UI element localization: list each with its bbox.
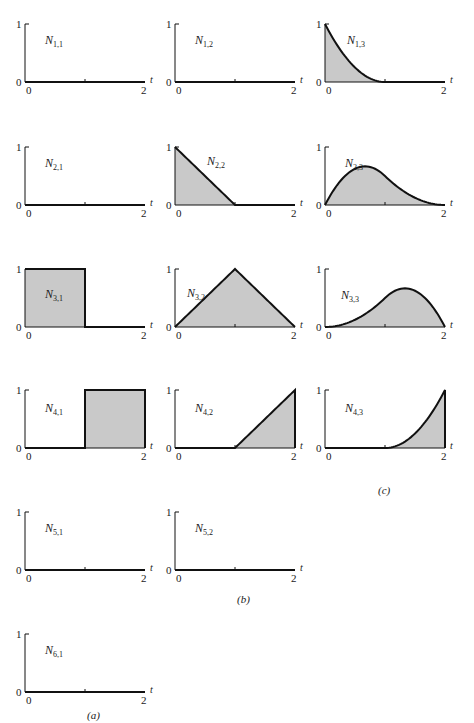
function-label: N5,1 — [44, 521, 63, 537]
x-label-0: 0 — [26, 329, 32, 341]
x-label-0: 0 — [26, 572, 32, 584]
x-label-2: 2 — [441, 207, 447, 219]
x-label-2: 2 — [441, 329, 447, 341]
function-label: N3,3 — [340, 288, 359, 304]
function-label: N1,2 — [194, 33, 213, 49]
x-label-2: 2 — [441, 84, 447, 96]
plot-3-3: 1002tN3,3 — [316, 263, 453, 341]
x-label-2: 2 — [141, 572, 147, 584]
y-label-1: 1 — [316, 18, 322, 30]
x-var-label: t — [300, 74, 303, 85]
y-label-0: 0 — [316, 321, 322, 333]
y-label-1: 1 — [316, 263, 322, 275]
x-var-label: t — [450, 440, 453, 451]
x-label-0: 0 — [176, 572, 182, 584]
function-label: N3,2 — [186, 286, 205, 302]
y-label-1: 1 — [16, 18, 22, 30]
y-label-0: 0 — [166, 321, 172, 333]
y-label-0: 0 — [166, 442, 172, 454]
function-label: N5,2 — [194, 521, 213, 537]
x-label-2: 2 — [141, 207, 147, 219]
plot-1-2: 1002tN1,2 — [166, 18, 303, 96]
x-var-label: t — [450, 197, 453, 208]
x-var-label: t — [150, 197, 153, 208]
plot-3-1: 1002tN3,1 — [16, 263, 153, 341]
y-label-0: 0 — [16, 564, 22, 576]
y-label-1: 1 — [16, 384, 22, 396]
plot-5-1: 1002tN5,1 — [16, 506, 153, 584]
plot-1-3: 1002tN1,3 — [316, 18, 453, 96]
area-fill — [175, 147, 295, 205]
x-var-label: t — [150, 440, 153, 451]
function-label: N2,3 — [344, 156, 363, 172]
x-label-0: 0 — [326, 450, 332, 462]
x-label-0: 0 — [326, 329, 332, 341]
y-label-0: 0 — [16, 686, 22, 698]
x-label-0: 0 — [26, 84, 32, 96]
plot-6-1: 1002tN6,1 — [16, 628, 153, 706]
x-label-2: 2 — [291, 572, 297, 584]
x-label-2: 2 — [291, 450, 297, 462]
x-label-0: 0 — [176, 207, 182, 219]
x-var-label: t — [450, 74, 453, 85]
y-label-0: 0 — [316, 199, 322, 211]
y-label-1: 1 — [316, 384, 322, 396]
area-fill — [175, 390, 295, 448]
plot-4-1: 1002tN4,1 — [16, 384, 153, 462]
function-label: N1,3 — [346, 33, 365, 49]
y-label-1: 1 — [16, 141, 22, 153]
x-var-label: t — [300, 319, 303, 330]
x-label-0: 0 — [176, 84, 182, 96]
y-label-1: 1 — [166, 263, 172, 275]
y-label-0: 0 — [16, 199, 22, 211]
plot-2-3: 1002tN2,3 — [316, 141, 453, 219]
function-label: N6,1 — [44, 643, 63, 659]
y-label-1: 1 — [166, 506, 172, 518]
x-label-0: 0 — [26, 207, 32, 219]
caption-b: (b) — [237, 593, 250, 606]
x-label-2: 2 — [141, 84, 147, 96]
y-label-1: 1 — [16, 628, 22, 640]
y-label-0: 0 — [166, 564, 172, 576]
y-label-1: 1 — [166, 18, 172, 30]
x-label-2: 2 — [291, 329, 297, 341]
y-label-0: 0 — [166, 76, 172, 88]
function-label: N4,2 — [194, 401, 213, 417]
y-label-1: 1 — [166, 384, 172, 396]
y-label-0: 0 — [316, 76, 322, 88]
area-fill — [85, 390, 145, 448]
function-label: N2,2 — [206, 154, 225, 170]
y-label-0: 0 — [16, 76, 22, 88]
x-label-2: 2 — [141, 450, 147, 462]
plot-3-2: 1002tN3,2 — [166, 263, 303, 341]
x-var-label: t — [450, 319, 453, 330]
x-label-2: 2 — [441, 450, 447, 462]
y-label-0: 0 — [16, 321, 22, 333]
x-label-0: 0 — [176, 450, 182, 462]
x-label-0: 0 — [26, 450, 32, 462]
x-label-0: 0 — [326, 84, 332, 96]
y-label-1: 1 — [16, 506, 22, 518]
y-label-0: 0 — [316, 442, 322, 454]
x-var-label: t — [150, 684, 153, 695]
x-var-label: t — [150, 74, 153, 85]
x-label-2: 2 — [291, 207, 297, 219]
y-label-1: 1 — [316, 141, 322, 153]
function-label: N2,1 — [44, 156, 63, 172]
function-label: N4,3 — [344, 401, 363, 417]
bspline-basis-figure: 1002tN1,11002tN1,21002tN1,31002tN2,11002… — [0, 0, 474, 723]
x-label-2: 2 — [291, 84, 297, 96]
plot-5-2: 1002tN5,2 — [166, 506, 303, 584]
x-var-label: t — [150, 562, 153, 573]
plot-4-2: 1002tN4,2 — [166, 384, 303, 462]
y-label-0: 0 — [166, 199, 172, 211]
area-fill — [325, 166, 445, 205]
x-var-label: t — [300, 197, 303, 208]
x-var-label: t — [300, 562, 303, 573]
function-label: N4,1 — [44, 401, 63, 417]
caption-c: (c) — [378, 484, 391, 497]
plot-4-3: 1002tN4,3 — [316, 384, 453, 462]
function-label: N1,1 — [44, 33, 63, 49]
x-var-label: t — [300, 440, 303, 451]
y-label-1: 1 — [16, 263, 22, 275]
